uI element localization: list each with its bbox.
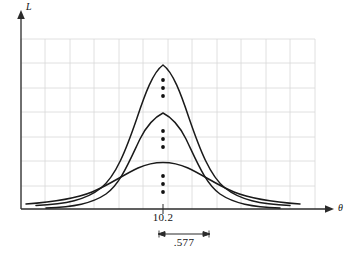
dot xyxy=(161,190,165,194)
plot-canvas xyxy=(0,0,358,257)
y-axis-arrowhead xyxy=(17,10,25,19)
width-annotation-label: .577 xyxy=(174,236,194,248)
likelihood-curve-figure: L θ 10.2 .577 xyxy=(0,0,358,257)
dot xyxy=(161,182,165,186)
peak-tick-label: 10.2 xyxy=(153,211,173,223)
dots-upper xyxy=(161,78,165,98)
grid-lines xyxy=(21,39,315,209)
y-axis-label: L xyxy=(26,1,32,12)
dot xyxy=(161,78,165,82)
dots-lower xyxy=(161,174,165,194)
x-axis-arrowhead xyxy=(325,205,334,213)
dot xyxy=(161,174,165,178)
dot xyxy=(161,86,165,90)
dots-middle xyxy=(161,129,165,149)
vertical-dot-groups xyxy=(161,78,165,194)
dot xyxy=(161,137,165,141)
dot xyxy=(161,129,165,133)
dot xyxy=(161,94,165,98)
dot xyxy=(161,145,165,149)
axes xyxy=(21,16,328,209)
x-axis-label: θ xyxy=(338,202,343,213)
